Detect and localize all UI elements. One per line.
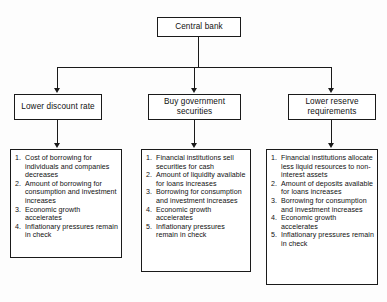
connector-bus-to-discount [57,67,58,88]
connector-bus-to-buy [194,67,195,88]
list-item: Amount of deposits available for loans i… [271,180,374,197]
list-item: Financial institutions sell securities f… [146,154,247,171]
list-item: Amount of borrowing for consumption and … [15,180,118,206]
list-item: Cost of borrowing for individuals and co… [15,154,118,180]
arrow-to-effects-right-icon [328,143,334,148]
list-item: Economic growth accelerates [15,206,118,223]
node-central-bank: Central bank [157,17,241,37]
effects-list-mid: Financial institutions sell securities f… [142,150,250,243]
connector-bus-to-reserve [331,67,332,88]
list-item: Inflationary pressures remain in check [15,223,118,240]
list-item: Amount of liquidity available for loans … [146,171,247,188]
list-item: Financial institutions allocate less liq… [271,154,374,180]
node-lower-discount-rate: Lower discount rate [14,94,102,120]
arrow-to-buy-icon [191,88,197,93]
node-lower-discount-rate-label: Lower discount rate [19,102,96,113]
arrow-to-reserve-icon [328,88,334,93]
arrow-to-discount-icon [54,88,60,93]
connector-root-stem [198,37,199,67]
list-item: Economic growth accelerates [271,214,374,231]
node-central-bank-label: Central bank [173,22,225,33]
node-buy-government-securities-label: Buy government securities [149,97,240,118]
node-effects-buy-government-securities: Financial institutions sell securities f… [141,149,251,272]
node-lower-reserve-requirements: Lower reserve requirements [288,94,376,120]
arrow-to-effects-left-icon [54,143,60,148]
list-item: Borrowing for consumption and investment… [271,197,374,214]
node-effects-lower-discount-rate: Cost of borrowing for individuals and co… [10,149,122,258]
connector-reserve-to-effects [331,120,332,143]
list-item: Borrowing for consumption and investment… [146,188,247,205]
arrow-to-effects-mid-icon [191,143,197,148]
node-effects-lower-reserve-requirements: Financial institutions allocate less liq… [266,149,378,285]
node-lower-reserve-requirements-label: Lower reserve requirements [289,97,375,118]
connector-buy-to-effects [194,120,195,143]
list-item: Inflationary pressures remain in check [146,223,247,240]
list-item: Economic growth accelerates [146,206,247,223]
effects-list-right: Financial institutions allocate less liq… [267,150,377,252]
node-buy-government-securities: Buy government securities [148,94,241,120]
effects-list-left: Cost of borrowing for individuals and co… [11,150,121,243]
flowchart-canvas: Central bank Lower discount rate Buy gov… [0,0,387,302]
list-item: Inflationary pressures remain in check [271,231,374,248]
connector-discount-to-effects [57,120,58,143]
